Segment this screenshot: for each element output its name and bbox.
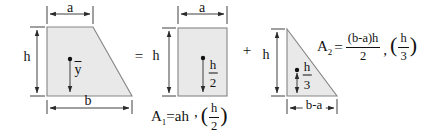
formula-a2-paren-close: )	[410, 34, 417, 56]
trapezoid-dim-a-label: a	[67, 1, 73, 15]
rectangle-dim-a-label: a	[199, 1, 205, 15]
triangle-fraction-denominator: 3	[304, 76, 311, 91]
formula-a1-frac-den: 2	[211, 118, 217, 133]
formula-a1-separator: ,	[194, 104, 198, 121]
formula-a2-symbol: A	[317, 38, 328, 54]
rectangle-dim-h	[162, 28, 176, 96]
rectangle-centroid-fraction: h 2	[209, 58, 218, 89]
rectangle-fraction-denominator: 2	[210, 74, 217, 89]
trapezoid-shape	[47, 27, 132, 96]
triangle-dim-h-label: h	[263, 48, 270, 62]
trapezoid-dim-h-label: h	[24, 50, 31, 64]
formula-a2-separator: ,	[383, 42, 387, 59]
centroid-composite-figure: a h y b = a h h 2 + h h 3 b-a A1=ah , ( …	[0, 0, 431, 138]
trapezoid-centroid-label: y	[75, 63, 82, 77]
formula-a2-equals: =	[334, 39, 342, 56]
formula-a2-fraction1: (b-a)h 2	[346, 32, 381, 62]
trapezoid-dim-b-label: b	[85, 94, 92, 108]
rectangle-fraction-numerator: h	[209, 58, 218, 74]
trapezoid-dim-h	[30, 27, 45, 96]
formula-a1: A1=ah , ( h 2 )	[151, 102, 228, 132]
formula-a1-frac-num: h	[209, 102, 219, 118]
formula-a2-lhs: A2	[317, 38, 332, 57]
equals-sign: =	[135, 49, 143, 64]
formula-a2: A2 = (b-a)h 2 , ( h 3 )	[317, 32, 417, 62]
formula-a1-fraction: h 2	[209, 102, 219, 132]
rectangle-dim-h-label: h	[153, 49, 160, 63]
plus-sign: +	[243, 43, 251, 58]
triangle-fraction-numerator: h	[303, 60, 312, 76]
formula-a1-paren-close: )	[220, 104, 227, 126]
formula-a2-frac1-num: (b-a)h	[346, 32, 381, 48]
rectangle-shape	[178, 28, 227, 96]
formula-a2-subscript: 2	[328, 47, 333, 57]
formula-a2-paren-open: (	[390, 34, 397, 56]
formula-a1-symbol: A	[151, 108, 162, 124]
triangle-centroid-fraction: h 3	[303, 60, 312, 91]
triangle-dim-base-label: b-a	[303, 98, 326, 111]
formula-a2-frac2-num: h	[398, 32, 408, 48]
formula-a2-frac2-den: 3	[400, 48, 406, 63]
formula-a1-paren-open: (	[201, 104, 208, 126]
formula-a1-lhs: A1=ah	[151, 108, 189, 127]
formula-a2-frac1-den: 2	[360, 48, 366, 63]
formula-a1-expression: =ah	[166, 108, 189, 124]
triangle-dim-h	[271, 29, 285, 96]
formula-a2-fraction2: h 3	[398, 32, 408, 62]
